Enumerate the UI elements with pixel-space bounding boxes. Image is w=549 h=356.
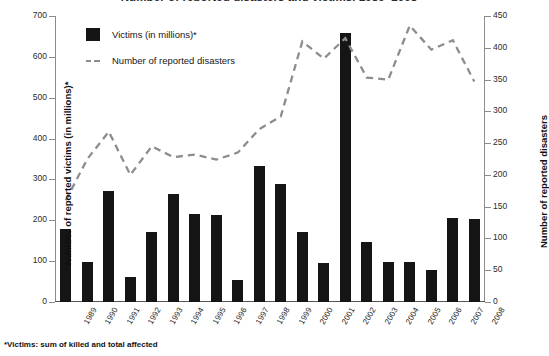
x-axis-labels: 1989199019911992199319941995199619971998… (55, 304, 485, 338)
y-tick-label-right: 350 (493, 75, 507, 84)
y-tick-label-left: 100 (33, 256, 47, 265)
y-tick-label-right: 400 (493, 43, 507, 52)
y-tick-label-right: 0 (493, 297, 498, 306)
y-tick-label-left: 0 (42, 297, 47, 306)
x-label-1992: 1992 (146, 306, 163, 326)
y-tick-label-right: 300 (493, 106, 507, 115)
x-label-1999: 1999 (297, 306, 314, 326)
x-label-1989: 1989 (82, 306, 99, 326)
y-axis-left-title: Number of reported victims (in millions)… (62, 24, 73, 324)
y-tick-label-left: 400 (33, 134, 47, 143)
x-label-1993: 1993 (168, 306, 185, 326)
x-label-2002: 2002 (361, 306, 378, 326)
y-tick-right (485, 302, 491, 303)
chart-title: Number of reported disasters and victims… (0, 0, 538, 1)
x-label-2000: 2000 (318, 306, 335, 326)
y-tick-right (485, 175, 491, 176)
y-tick-label-right: 450 (493, 11, 507, 20)
y-tick-label-left: 600 (33, 52, 47, 61)
y-tick-right (485, 207, 491, 208)
y-tick-left (49, 302, 55, 303)
x-label-1994: 1994 (189, 306, 206, 326)
x-label-1991: 1991 (125, 306, 142, 326)
y-tick-label-left: 300 (33, 174, 47, 183)
y-tick-label-left: 500 (33, 93, 47, 102)
y-tick-label-right: 250 (493, 138, 507, 147)
line-series-disasters (55, 16, 485, 302)
y-tick-label-left: 200 (33, 215, 47, 224)
disasters-line-path (66, 26, 475, 201)
x-label-2008: 2008 (490, 306, 507, 326)
x-label-1990: 1990 (103, 306, 120, 326)
x-label-2007: 2007 (469, 306, 486, 326)
x-label-2001: 2001 (340, 306, 357, 326)
x-label-2004: 2004 (404, 306, 421, 326)
y-tick-label-right: 200 (493, 170, 507, 179)
plot-area: 0100200300400500600700 05010015020025030… (55, 16, 485, 302)
y-tick-right (485, 143, 491, 144)
y-tick-label-right: 50 (493, 265, 502, 274)
y-tick-right (485, 111, 491, 112)
x-label-1996: 1996 (232, 306, 249, 326)
y-tick-label-right: 100 (493, 233, 507, 242)
x-label-2003: 2003 (383, 306, 400, 326)
x-label-2005: 2005 (426, 306, 443, 326)
x-label-1998: 1998 (275, 306, 292, 326)
y-tick-right (485, 270, 491, 271)
chart-footnote: *Victims: sum of killed and total affect… (4, 340, 158, 349)
x-label-1997: 1997 (254, 306, 271, 326)
y-tick-right (485, 238, 491, 239)
y-tick-right (485, 80, 491, 81)
x-label-2006: 2006 (447, 306, 464, 326)
y-tick-right (485, 48, 491, 49)
x-label-1995: 1995 (211, 306, 228, 326)
y-tick-label-left: 700 (33, 11, 47, 20)
y-axis-right-title: Number of reported disasters (538, 32, 549, 332)
y-tick-label-right: 150 (493, 202, 507, 211)
y-tick-right (485, 16, 491, 17)
